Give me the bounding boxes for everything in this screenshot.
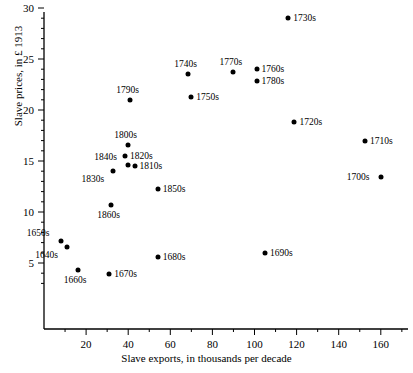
data-point (378, 175, 383, 180)
data-point (363, 138, 368, 143)
data-point-label: 1650s (27, 228, 50, 238)
x-axis-title: Slave exports, in thousands per decade (0, 352, 413, 364)
scatter-plot-figure: 5101520253020406080100120140160 1650s164… (0, 0, 413, 373)
data-point-label: 1790s (116, 85, 139, 95)
x-tick-label: 140 (330, 339, 347, 350)
data-point-label: 1720s (299, 117, 322, 127)
data-point-label: 1660s (64, 275, 87, 285)
data-point (126, 163, 131, 168)
data-point (155, 254, 160, 259)
data-point (75, 268, 80, 273)
data-point-label: 1780s (262, 76, 285, 86)
y-tick-label: 10 (0, 207, 34, 218)
data-point (58, 238, 63, 243)
x-tick-label: 160 (373, 339, 390, 350)
data-point (155, 186, 160, 191)
data-point (186, 72, 191, 77)
data-point (128, 97, 133, 102)
data-point-label: 1700s (347, 172, 370, 182)
data-point-label: 1840s (94, 152, 117, 162)
data-point-label: 1670s (114, 269, 137, 279)
data-point-label: 1680s (163, 252, 186, 262)
data-point-label: 1690s (270, 248, 293, 258)
data-point (292, 120, 297, 125)
x-tick-label: 60 (165, 339, 176, 350)
data-point (126, 142, 131, 147)
x-tick-label: 20 (81, 339, 92, 350)
data-point-label: 1730s (293, 13, 316, 23)
data-point (286, 16, 291, 21)
data-point (231, 70, 236, 75)
data-point-label: 1710s (370, 136, 393, 146)
data-point-label: 1820s (130, 151, 153, 161)
data-point (123, 153, 128, 158)
data-point (254, 79, 259, 84)
data-point-label: 1830s (81, 174, 104, 184)
data-point-label: 1750s (196, 92, 219, 102)
y-axis-title: Slave prices, in £ 1913 (12, 0, 24, 186)
x-tick-label: 120 (288, 339, 305, 350)
x-tick-label: 80 (207, 339, 218, 350)
data-point-label: 1800s (114, 130, 137, 140)
data-point-label: 1860s (97, 210, 120, 220)
x-axis-title-text: Slave exports, in thousands per decade (121, 352, 291, 364)
data-point-label: 1810s (140, 161, 163, 171)
y-axis-title-text: Slave prices, in £ 1913 (12, 26, 24, 127)
data-point (254, 67, 259, 72)
data-point-label: 1760s (262, 64, 285, 74)
x-tick-label: 40 (123, 339, 134, 350)
data-point-label: 1640s (35, 250, 58, 260)
plot-axes-svg (0, 0, 413, 373)
data-point (132, 164, 137, 169)
y-tick-label: 5 (0, 258, 34, 269)
data-point (111, 169, 116, 174)
data-point (263, 250, 268, 255)
x-tick-label: 100 (246, 339, 263, 350)
data-point (107, 272, 112, 277)
data-point-label: 1850s (163, 184, 186, 194)
data-point-label: 1740s (174, 59, 197, 69)
data-point (109, 202, 114, 207)
data-point-label: 1770s (219, 57, 242, 67)
data-point (189, 94, 194, 99)
data-point (65, 244, 70, 249)
